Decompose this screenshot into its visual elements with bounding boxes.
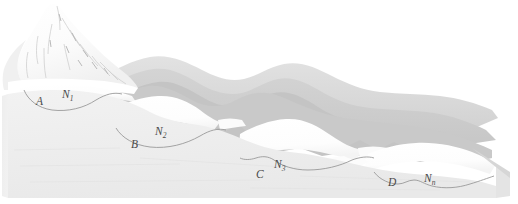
glacial-landscape-figure: A N1 B N2 C N3 D Nn [0, 0, 518, 204]
label-hollow-nn-subscript: n [432, 178, 436, 187]
label-letter-c: C [256, 168, 264, 180]
label-letter-b: B [131, 138, 138, 150]
landscape-diagram-canvas: A N1 B N2 C N3 D Nn [0, 0, 518, 204]
foreground-left-face [2, 94, 8, 198]
label-hollow-n2-subscript: 2 [163, 131, 167, 140]
label-hollow-n3-subscript: 3 [281, 164, 286, 173]
label-letter-a: A [35, 95, 44, 107]
label-hollow-n1-subscript: 1 [70, 94, 74, 103]
label-letter-d: D [387, 176, 397, 188]
